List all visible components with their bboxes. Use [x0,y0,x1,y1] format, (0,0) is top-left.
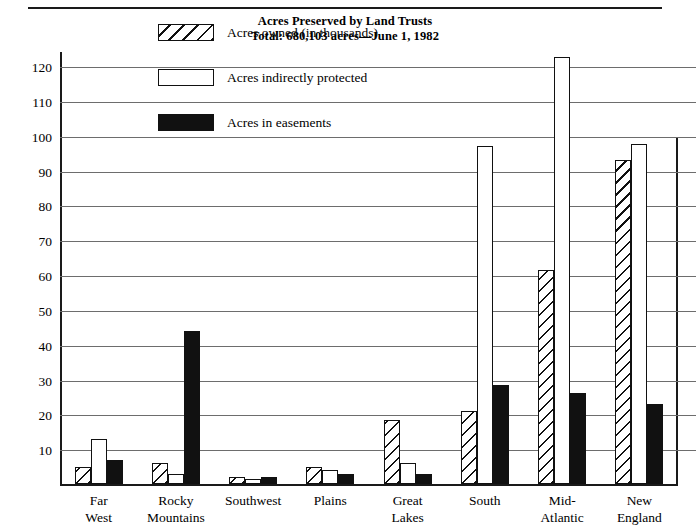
bar-owned [75,467,91,484]
bar-easement [184,331,200,484]
bar-group [152,331,200,484]
legend-item: Acres owned (in thousands) [158,18,378,47]
bar-protected [400,463,416,484]
bar-owned [615,160,631,484]
bar-easement [570,393,586,484]
y-tick-label: 20 [14,408,52,424]
bar-protected [477,146,493,484]
gridline [60,241,696,242]
y-tick-label: 120 [14,60,52,76]
bar-group [229,477,277,484]
chart-legend: Acres owned (in thousands) Acres indirec… [158,18,378,153]
bar-owned [461,411,477,484]
y-tick-label: 50 [14,304,52,320]
legend-label: Acres in easements [227,115,331,131]
bar-protected [91,439,107,484]
gridline [60,172,696,173]
gridline [60,311,696,312]
bar-owned [306,467,322,484]
y-tick-label: 30 [14,374,52,390]
bar-protected [554,57,570,484]
x-axis-tick-labels: FarWestRockyMountainsSouthwestPlainsGrea… [0,492,690,529]
bar-owned [152,463,168,484]
plot-right-border [676,138,678,486]
bar-protected [245,479,261,484]
y-tick-label: 10 [14,443,52,459]
y-tick-label: 80 [14,199,52,215]
legend-label: Acres indirectly protected [227,70,367,86]
bar-group [306,467,354,484]
bar-owned [538,270,554,484]
bar-easement [338,474,354,484]
bar-easement [107,460,123,484]
bar-group [384,420,432,484]
bar-group [461,146,509,484]
bar-protected [322,470,338,484]
bar-owned [384,420,400,484]
bar-protected [168,474,184,484]
bar-easement [647,404,663,484]
y-tick-label: 60 [14,269,52,285]
legend-swatch-hatch-icon [158,24,214,41]
legend-item: Acres indirectly protected [158,63,378,92]
bar-group [75,439,123,484]
y-tick-label: 90 [14,165,52,181]
bar-group [615,144,663,484]
legend-swatch-solid-icon [158,114,214,131]
y-tick-label: 40 [14,339,52,355]
y-tick-label: 110 [14,95,52,111]
y-tick-label: 100 [14,130,52,146]
gridline [60,206,696,207]
bar-owned [229,477,245,484]
top-horizontal-rule [28,7,662,9]
legend-swatch-outline-icon [158,69,214,86]
legend-item: Acres in easements [158,108,378,137]
bar-easement [416,474,432,484]
bar-easement [261,477,277,484]
x-axis-line [60,484,678,486]
y-axis-line [60,52,62,486]
y-tick-label: 70 [14,234,52,250]
bar-protected [631,144,647,484]
bar-easement [493,385,509,484]
x-tick-label: NewEngland [579,492,699,526]
gridline [60,276,696,277]
bar-group [538,57,586,484]
legend-label: Acres owned (in thousands) [227,25,378,41]
